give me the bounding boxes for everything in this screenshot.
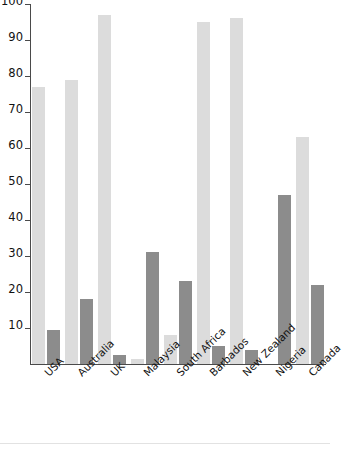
y-tick-label: 70: [8, 104, 23, 116]
bar-canada-series-1: [296, 137, 309, 364]
bar-group: [96, 4, 129, 364]
bar-malaysia-series-2: [146, 252, 159, 364]
y-tick-label: 40: [8, 212, 23, 224]
bar-group: [260, 4, 293, 364]
bar-new-zealand-series-1: [230, 18, 243, 364]
bar-barbados-series-1: [197, 22, 210, 364]
bar-group: [162, 4, 195, 364]
bar-uk-series-1: [98, 15, 111, 364]
bar-south-africa-series-2: [179, 281, 192, 364]
y-tick-label: 100: [1, 0, 23, 8]
bar-canada-series-2: [311, 285, 324, 364]
bar-group: [129, 4, 162, 364]
y-tick-label: 80: [8, 68, 23, 80]
x-axis-labels: USAAustraliaUKMalaysiaSouth AfricaBarbad…: [0, 364, 330, 451]
y-tick-label: 60: [8, 140, 23, 152]
bar-group: [293, 4, 326, 364]
bar-group: [194, 4, 227, 364]
footer-divider: [0, 443, 330, 444]
bar-group: [30, 4, 63, 364]
y-tick-label: 20: [8, 284, 23, 296]
y-tick-label: 50: [8, 176, 23, 188]
plot-area: [30, 4, 326, 364]
bar-group: [227, 4, 260, 364]
bar-usa-series-1: [32, 87, 45, 364]
y-tick-label: 30: [8, 248, 23, 260]
y-tick-label: 10: [8, 320, 23, 332]
y-tick-label: 90: [8, 32, 23, 44]
bar-australia-series-1: [65, 80, 78, 364]
bar-group: [63, 4, 96, 364]
